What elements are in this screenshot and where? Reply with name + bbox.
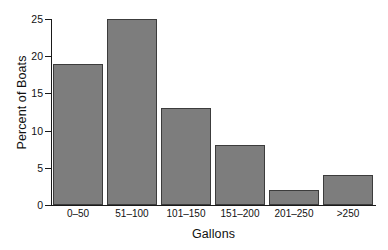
x-axis-tick-label: 151–200 — [213, 208, 267, 220]
bar-chart: Percent of Boats 2520151050 0–5051–10010… — [0, 0, 388, 250]
y-axis-tick — [45, 205, 52, 206]
x-axis-tick-label: 0–50 — [51, 208, 105, 220]
x-axis-tick-label: 201–250 — [267, 208, 321, 220]
bar — [107, 19, 157, 205]
y-axis-title: Percent of Boats — [12, 0, 32, 205]
y-axis-tick-label: 25 — [3, 14, 43, 24]
x-axis-tick-label: 51–100 — [105, 208, 159, 220]
bar — [53, 64, 103, 205]
y-axis-tick-label: 0 — [3, 200, 43, 210]
y-axis-tick-label: 15 — [3, 88, 43, 98]
y-axis-tick-label: 20 — [3, 51, 43, 61]
x-axis-tick-label: >250 — [321, 208, 375, 220]
y-axis-tick-label: 5 — [3, 163, 43, 173]
x-axis-tick-label: 101–150 — [159, 208, 213, 220]
bar — [323, 175, 373, 205]
bar — [269, 190, 319, 205]
x-axis-title: Gallons — [51, 226, 376, 242]
plot-area — [51, 19, 375, 205]
x-axis-line — [51, 205, 376, 206]
bar — [215, 145, 265, 205]
y-axis-tick-label: 10 — [3, 126, 43, 136]
bar — [161, 108, 211, 205]
